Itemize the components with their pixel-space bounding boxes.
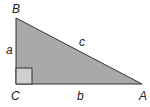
vertex-label-b: B [12,2,20,16]
side-label-b: b [77,89,84,103]
vertex-label-a: A [138,89,147,103]
side-label-a: a [6,43,13,57]
right-angle-marker [16,68,32,84]
triangle-shape [16,18,142,84]
vertex-label-c: C [11,89,20,103]
side-label-c: c [79,35,85,49]
right-triangle-diagram: B C A a b c [0,0,150,107]
